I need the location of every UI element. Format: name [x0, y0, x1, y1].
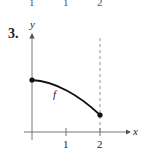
x-tick-label-1: 1	[63, 138, 69, 150]
x-axis-label: x	[133, 125, 138, 137]
function-label-f: f	[53, 88, 56, 100]
y-axis-label: y	[30, 18, 35, 30]
function-graph	[0, 0, 144, 158]
endpoint-left	[29, 77, 34, 82]
endpoint-right	[97, 112, 102, 117]
curve-f	[32, 80, 100, 115]
x-tick-label-2: 2	[97, 138, 103, 150]
